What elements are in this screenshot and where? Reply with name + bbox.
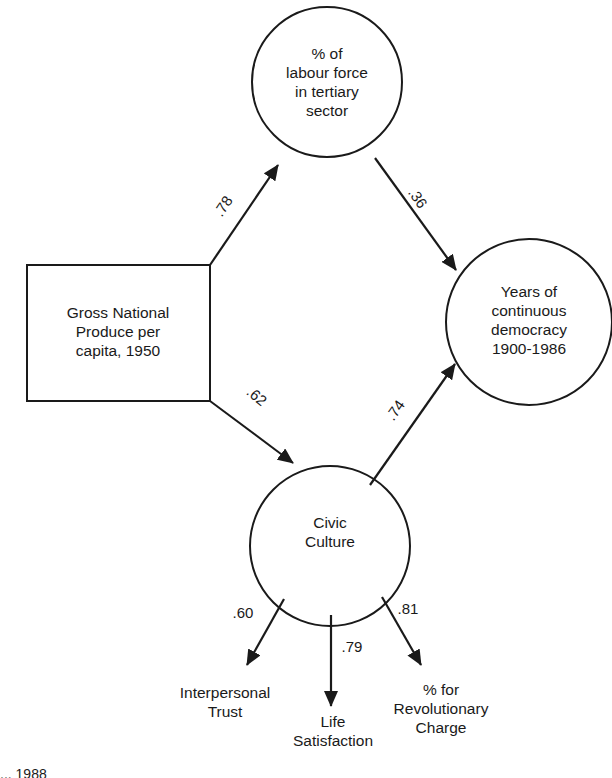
label-line: continuous (491, 301, 567, 320)
labour-force-label: % of labour force in tertiary sector (286, 44, 368, 120)
edge-gnp-civic (210, 401, 293, 463)
coefficient-civic-life: .79 (342, 638, 363, 655)
label-line: Years of (491, 282, 567, 301)
label-line: Gross National (67, 303, 170, 322)
label-line: sector (286, 101, 368, 120)
label-line: Produce per (67, 322, 170, 341)
label-line: Culture (305, 532, 355, 551)
label-line: Interpersonal (180, 683, 270, 702)
label-line: Charge (394, 718, 489, 737)
label-line: Trust (180, 702, 270, 721)
source-line-clipped: ... 1988 (0, 766, 47, 778)
democracy-label: Years of continuous democracy 1900-1986 (491, 282, 567, 358)
coefficient-civic-trust: .60 (233, 604, 254, 621)
edge-civic-democracy (370, 364, 455, 485)
label-line: capita, 1950 (67, 341, 170, 360)
label-line: Satisfaction (293, 731, 373, 750)
civic-culture-label: Civic Culture (305, 513, 355, 551)
life-satisfaction-label: Life Satisfaction (293, 712, 373, 750)
revolutionary-charge-label: % for Revolutionary Charge (394, 680, 489, 737)
label-line: in tertiary (286, 82, 368, 101)
label-line: 1900-1986 (491, 339, 567, 358)
label-line: % for (394, 680, 489, 699)
gnp-label: Gross National Produce per capita, 1950 (67, 303, 170, 360)
label-line: democracy (491, 320, 567, 339)
label-line: Life (293, 712, 373, 731)
label-line: Revolutionary (394, 699, 489, 718)
coefficient-civic-revolution: .81 (398, 600, 419, 617)
label-line: % of (286, 44, 368, 63)
interpersonal-trust-label: Interpersonal Trust (180, 683, 270, 721)
label-line: Civic (305, 513, 355, 532)
label-line: labour force (286, 63, 368, 82)
edge-labour-democracy (375, 158, 456, 270)
